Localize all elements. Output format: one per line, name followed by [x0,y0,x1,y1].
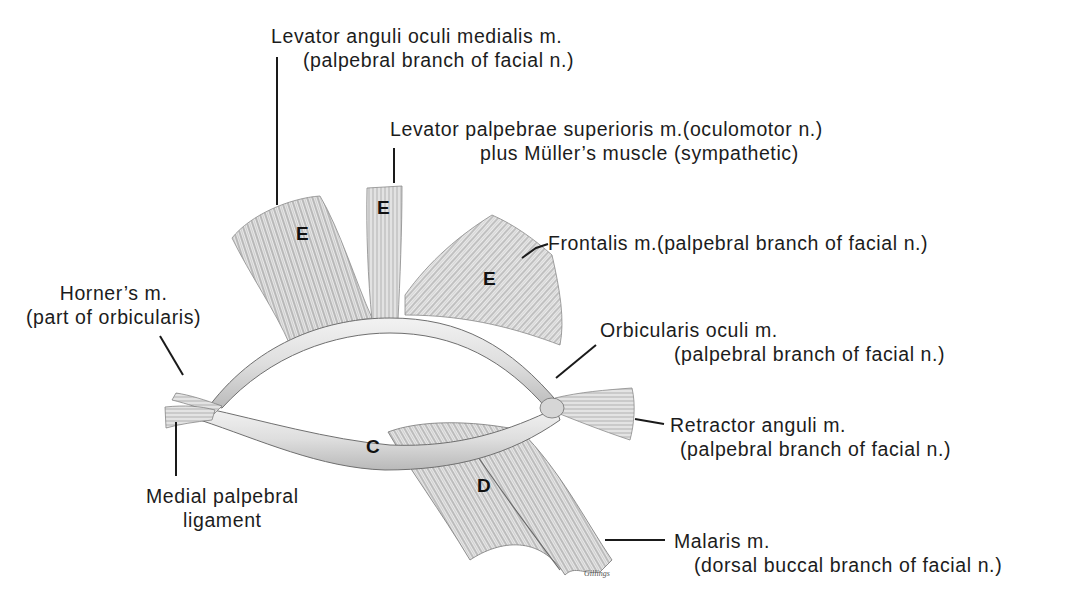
orbicularis-oculi-muscle [200,318,564,470]
label-malaris: Malaris m. (dorsal buccal branch of faci… [674,529,1002,577]
label-frontalis: Frontalis m.(palpebral branch of facial … [548,231,928,255]
label-orbicularis-oculi: Orbicularis oculi m. (palpebral branch o… [600,318,945,366]
label-frontalis-line1: Frontalis m.(palpebral branch of facial … [548,231,928,255]
label-levator-anguli-line1: Levator anguli oculi medialis m. [271,24,574,48]
label-orbicularis-line2: (palpebral branch of facial n.) [600,342,945,366]
region-letter-e-frontalis: E [483,268,496,290]
region-letter-c-orbicularis: C [366,436,380,458]
label-medial-ligament-line1: Medial palpebral [146,484,299,508]
label-orbicularis-line1: Orbicularis oculi m. [600,318,945,342]
label-retractor-line2: (palpebral branch of facial n.) [670,437,951,461]
label-levator-anguli-line2: (palpebral branch of facial n.) [271,48,574,72]
label-horners-line1: Horner’s m. [26,281,201,305]
region-letter-e-levator-anguli: E [296,223,309,245]
leader-orbicularis [556,345,596,378]
retractor-anguli-muscle [555,388,634,440]
label-horners-muscle: Horner’s m. (part of orbicularis) [26,281,201,329]
leader-retractor [635,419,664,424]
label-levator-palpebrae-line1: Levator palpebrae superioris m.(oculomot… [390,117,823,141]
label-levator-palpebrae-line2: plus Müller’s muscle (sympathetic) [390,141,823,165]
label-levator-anguli-oculi-medialis: Levator anguli oculi medialis m. (palpeb… [271,24,574,72]
label-retractor-anguli: Retractor anguli m. (palpebral branch of… [670,413,951,461]
label-levator-palpebrae-superioris: Levator palpebrae superioris m.(oculomot… [390,117,823,165]
label-medial-ligament-line2: ligament [146,508,299,532]
medial-palpebral-ligament [165,406,215,428]
region-letter-e-levator-palpebrae: E [377,197,390,219]
label-malaris-line2: (dorsal buccal branch of facial n.) [674,553,1002,577]
artist-signature: Gillings [584,569,610,578]
leader-horners [160,336,183,375]
label-medial-palpebral-ligament: Medial palpebral ligament [146,484,299,532]
region-letter-d-malaris: D [477,475,491,497]
label-horners-line2: (part of orbicularis) [26,305,201,329]
label-malaris-line1: Malaris m. [674,529,1002,553]
label-retractor-line1: Retractor anguli m. [670,413,951,437]
